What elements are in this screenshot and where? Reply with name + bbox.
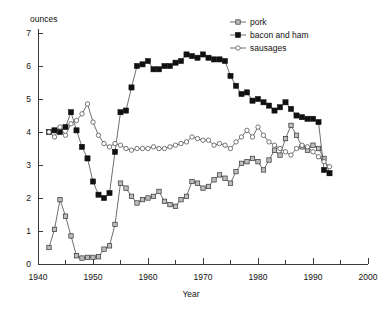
y-axis-tick-label: 5	[26, 94, 31, 104]
data-point	[244, 90, 249, 95]
data-point	[63, 124, 68, 129]
data-point	[189, 54, 194, 59]
data-point	[278, 153, 282, 157]
data-point	[107, 244, 111, 248]
chart-svg: 012345671940195019601970198019902000 por…	[0, 0, 382, 315]
data-point	[283, 150, 287, 154]
data-point	[162, 199, 166, 203]
data-point	[52, 227, 56, 231]
data-point	[68, 110, 73, 115]
data-point	[135, 201, 139, 205]
data-point	[294, 113, 299, 118]
data-point	[239, 161, 243, 165]
data-point	[261, 133, 265, 137]
data-point	[234, 169, 238, 173]
data-point	[239, 91, 244, 96]
data-point	[96, 192, 101, 197]
data-point	[74, 118, 78, 122]
data-point	[272, 143, 276, 147]
data-point	[129, 148, 133, 152]
data-point	[305, 145, 309, 149]
data-point	[157, 189, 161, 193]
data-point	[118, 181, 122, 185]
data-point	[74, 128, 79, 133]
data-point	[300, 143, 304, 147]
data-point	[266, 103, 271, 108]
data-point	[96, 133, 100, 137]
data-point	[272, 108, 277, 113]
data-point	[91, 120, 95, 124]
data-point	[190, 179, 194, 183]
y-axis-tick-label: 4	[26, 127, 31, 137]
data-point	[129, 194, 133, 198]
data-point	[146, 196, 150, 200]
data-point	[79, 144, 84, 149]
data-point	[201, 186, 205, 190]
data-point	[289, 123, 293, 127]
data-point	[69, 122, 73, 126]
data-point	[146, 146, 150, 150]
data-point	[113, 141, 117, 145]
data-point	[134, 63, 139, 68]
chart-figure: 012345671940195019601970198019902000 por…	[0, 0, 382, 315]
data-point	[201, 138, 205, 142]
data-point	[294, 133, 298, 137]
data-point	[140, 62, 145, 67]
data-point	[278, 146, 282, 150]
legend-marker	[236, 46, 240, 50]
data-point	[129, 85, 134, 90]
data-point	[162, 146, 166, 150]
data-point	[250, 135, 254, 139]
legend-marker	[236, 20, 240, 24]
data-point	[228, 181, 232, 185]
data-point	[190, 135, 194, 139]
legend-marker	[235, 32, 240, 37]
y-axis-tick-label: 7	[26, 28, 31, 38]
data-point	[277, 105, 282, 110]
data-point	[112, 149, 117, 154]
data-point	[272, 148, 276, 152]
x-axis-tick-label: 1940	[29, 272, 48, 282]
data-point	[91, 255, 95, 259]
data-point	[96, 255, 100, 259]
data-point	[228, 73, 233, 78]
data-point	[310, 116, 315, 121]
data-point	[294, 146, 298, 150]
data-point	[267, 158, 271, 162]
data-point	[52, 128, 57, 133]
y-axis-tick-label: 1	[26, 226, 31, 236]
data-point	[123, 108, 128, 113]
data-point	[261, 168, 265, 172]
data-point	[178, 58, 183, 63]
data-point	[173, 143, 177, 147]
data-point	[135, 146, 139, 150]
data-point	[124, 146, 128, 150]
data-point	[107, 190, 112, 195]
data-point	[233, 83, 238, 88]
x-axis-tick-label: 2000	[359, 272, 378, 282]
data-point	[217, 57, 222, 62]
x-axis-tick-label: 1950	[84, 272, 103, 282]
data-point	[211, 57, 216, 62]
data-point	[162, 63, 167, 68]
data-point	[107, 145, 111, 149]
data-point	[63, 214, 67, 218]
data-point	[47, 130, 51, 134]
data-point	[239, 135, 243, 139]
data-point	[283, 136, 287, 140]
data-point	[311, 150, 315, 154]
data-point	[223, 176, 227, 180]
data-point	[69, 234, 73, 238]
data-point	[327, 171, 332, 176]
data-point	[151, 145, 155, 149]
data-point	[255, 96, 260, 101]
legend-label: bacon and ham	[250, 30, 309, 40]
y-axis-label: ounces	[30, 14, 57, 24]
data-point	[58, 125, 62, 129]
data-point	[85, 102, 89, 106]
data-point	[85, 156, 90, 161]
data-point	[256, 125, 260, 129]
data-point	[289, 153, 293, 157]
data-point	[156, 67, 161, 72]
data-point	[195, 181, 199, 185]
